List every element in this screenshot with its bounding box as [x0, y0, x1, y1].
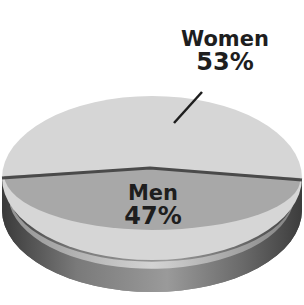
label-men: Men 47% — [103, 182, 203, 229]
label-women: Women 53% — [170, 28, 280, 75]
pie-chart: Women 53% Men 47% — [0, 0, 304, 305]
